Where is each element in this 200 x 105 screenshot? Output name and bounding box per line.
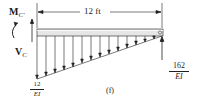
moment-label-sub: C' (18, 11, 24, 19)
reaction-arrow-icon (160, 37, 164, 61)
right-reaction-denominator: EI (169, 72, 189, 81)
right-reaction-numerator: 162 (169, 62, 189, 72)
figure-label: (f) (106, 87, 114, 95)
left-load-numerator: 12 (30, 81, 44, 90)
left-load-value: 12 EI (30, 81, 44, 98)
moment-label: MC' (9, 7, 25, 19)
moment-arrow-icon (12, 22, 18, 38)
right-reaction-value: 162 EI (169, 62, 189, 81)
shear-label-sub: C (22, 51, 27, 59)
shear-label: VC (15, 47, 27, 59)
shear-arrow-icon (30, 19, 33, 42)
load-envelope (37, 36, 162, 79)
span-dimension-label: 12 ft (83, 7, 102, 16)
beam (37, 29, 163, 36)
left-load-denominator: EI (30, 90, 44, 98)
distributed-load-arrows (36, 36, 156, 79)
